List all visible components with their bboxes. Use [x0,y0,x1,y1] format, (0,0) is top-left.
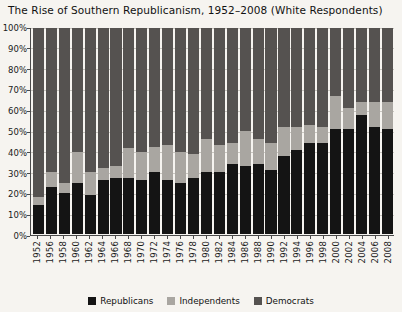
bar-segment-democrats [291,28,302,127]
bar-segment-republicans [59,193,70,234]
bar-segment-independents [98,168,109,180]
bar-column[interactable] [122,28,135,234]
x-axis-tick-label: 1970 [136,241,146,263]
bar-column[interactable] [381,28,394,234]
x-tick-mark [284,236,285,239]
x-tick-mark [154,236,155,239]
bar-segment-democrats [162,28,173,145]
x-axis-tick-label: 1964 [97,241,107,263]
bar-segment-independents [46,172,57,186]
bar-column[interactable] [368,28,381,234]
bar-segment-democrats [201,28,212,139]
bar-column[interactable] [71,28,84,234]
y-tick-mark [27,111,30,112]
y-tick-mark [27,90,30,91]
y-tick-mark [27,215,30,216]
x-tick-mark [102,236,103,239]
bar-segment-independents [278,127,289,156]
bar-segment-republicans [175,183,186,235]
x-tick-mark [37,236,38,239]
x-tick-mark [271,236,272,239]
bar-segment-independents [110,166,121,178]
x-tick-mark [349,236,350,239]
bar-column[interactable] [84,28,97,234]
bar-segment-independents [382,102,393,129]
bar-segment-independents [330,96,341,129]
bar-column[interactable] [355,28,368,234]
bar-segment-republicans [265,170,276,234]
bar-column[interactable] [200,28,213,234]
bar-segment-independents [369,102,380,127]
bar-column[interactable] [148,28,161,234]
bar-segment-independents [72,152,83,183]
bar-column[interactable] [226,28,239,234]
chart-legend: RepublicansIndependentsDemocrats [0,296,402,306]
bar-segment-republicans [291,150,302,234]
bar-column[interactable] [342,28,355,234]
bar-column[interactable] [265,28,278,234]
x-axis-tick-label: 1996 [305,241,315,263]
bar-segment-republicans [227,164,238,234]
x-axis-tick-label: 2008 [383,241,393,263]
bar-segment-democrats [188,28,199,154]
legend-swatch-icon [88,297,96,305]
bar-segment-republicans [240,166,251,234]
bar-column[interactable] [174,28,187,234]
x-axis-tick-label: 1966 [110,241,120,263]
bar-segment-republicans [162,180,173,234]
bar-column[interactable] [161,28,174,234]
bar-segment-republicans [46,187,57,234]
bar-series-group [32,28,394,234]
bar-column[interactable] [187,28,200,234]
bar-segment-democrats [382,28,393,102]
bar-segment-independents [188,154,199,179]
y-tick-mark [27,132,30,133]
x-axis-tick-label: 1994 [292,241,302,263]
bar-column[interactable] [303,28,316,234]
bar-column[interactable] [213,28,226,234]
bar-column[interactable] [45,28,58,234]
x-axis-tick-label: 2002 [344,241,354,263]
bar-segment-republicans [149,172,160,234]
bar-column[interactable] [58,28,71,234]
bar-segment-democrats [123,28,134,147]
bar-column[interactable] [239,28,252,234]
legend-label: Independents [179,296,239,306]
x-axis-tick-label: 1960 [71,241,81,263]
bar-segment-democrats [214,28,225,145]
x-tick-mark [219,236,220,239]
bar-segment-republicans [33,205,44,234]
x-axis-tick-label: 1962 [84,241,94,263]
x-tick-mark [141,236,142,239]
x-tick-mark [76,236,77,239]
bar-column[interactable] [135,28,148,234]
plot-area [30,28,394,236]
bar-segment-democrats [343,28,354,108]
x-axis-tick-label: 1974 [162,241,172,263]
bar-column[interactable] [97,28,110,234]
bar-segment-independents [123,148,134,179]
y-axis-tick-label: 0% [0,231,27,241]
bar-column[interactable] [316,28,329,234]
bar-segment-democrats [98,28,109,168]
bar-column[interactable] [32,28,45,234]
bar-column[interactable] [278,28,291,234]
y-axis-tick-label: 50% [0,127,27,137]
y-tick-mark [27,173,30,174]
bar-column[interactable] [329,28,342,234]
bar-segment-independents [214,145,225,172]
legend-item[interactable]: Democrats [254,296,314,306]
bar-segment-independents [304,125,315,144]
legend-item[interactable]: Independents [167,296,239,306]
x-tick-mark [245,236,246,239]
x-tick-mark [375,236,376,239]
bar-column[interactable] [110,28,123,234]
bar-segment-independents [175,152,186,183]
x-tick-mark [115,236,116,239]
legend-item[interactable]: Republicans [88,296,153,306]
y-tick-mark [27,236,30,237]
bar-column[interactable] [252,28,265,234]
bar-column[interactable] [290,28,303,234]
bar-segment-republicans [317,143,328,234]
legend-label: Republicans [100,296,153,306]
